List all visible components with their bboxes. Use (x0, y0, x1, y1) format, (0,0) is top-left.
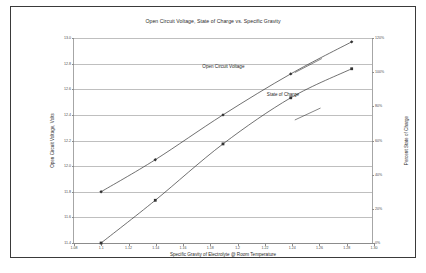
x-axis-tick-mark (265, 243, 266, 246)
x-axis-tick-label: 1.14 (152, 246, 159, 250)
x-axis-tick-mark (319, 243, 320, 246)
y-axis-left-tick-label: 12.0 (64, 164, 71, 168)
x-axis-tick-label: 1.26 (316, 246, 323, 250)
y-axis-right-tick-mark (372, 38, 374, 39)
x-axis-tick-label: 1.24 (289, 246, 296, 250)
x-axis-tick-label: 1.30 (371, 246, 378, 250)
data-point-marker (221, 113, 224, 116)
x-axis-tick-label: 1.2 (235, 246, 240, 250)
x-axis-tick-mark (74, 243, 75, 246)
y-axis-right-tick-label: 120% (375, 36, 384, 40)
x-axis-tick-label: 1.28 (343, 246, 350, 250)
x-axis-tick-mark (183, 243, 184, 246)
y-axis-right-tick-mark (372, 209, 374, 210)
y-axis-left-tick-label: 11.6 (64, 215, 71, 219)
y-axis-right-title: Percent State of Charge (401, 38, 411, 243)
y-axis-right-tick-label: 80% (375, 104, 382, 108)
data-point-marker (350, 67, 353, 70)
series-annotation-label: Open Circuit Voltage (202, 64, 244, 69)
data-point-marker (350, 40, 353, 43)
y-axis-left-tick-label: 11.8 (64, 190, 71, 194)
x-axis-tick-mark (292, 243, 293, 246)
y-axis-left-title: Open Circuit Voltage, Volts (47, 38, 57, 243)
x-axis-tick-label: 1.18 (207, 246, 214, 250)
y-axis-right-tick-mark (372, 175, 374, 176)
y-axis-left-tick-label: 12.6 (64, 87, 71, 91)
x-axis-tick-mark (156, 243, 157, 246)
series-line (101, 69, 352, 243)
x-axis-tick-label: 1.08 (71, 246, 78, 250)
x-axis-title: Specific Gravity of Electrolyte @ Room T… (73, 252, 373, 257)
data-point-marker (100, 242, 103, 245)
y-axis-left-tick-label: 12.8 (64, 62, 71, 66)
x-axis-tick-mark (347, 243, 348, 246)
annotation-leader-line (295, 108, 321, 120)
data-point-marker (222, 143, 225, 146)
chart-title: Open Circuit Voltage, State of Charge vs… (11, 18, 415, 24)
y-axis-left-tick-label: 12.2 (64, 139, 71, 143)
chart-frame: Open Circuit Voltage, State of Charge vs… (10, 6, 416, 258)
y-axis-right-tick-label: 100% (375, 70, 384, 74)
data-point-marker (154, 199, 157, 202)
data-point-marker (154, 158, 157, 161)
y-axis-right-tick-mark (372, 106, 374, 107)
y-axis-right-tick-mark (372, 72, 374, 73)
series-annotation-label: State of Charge (267, 92, 299, 97)
x-axis-tick-mark (374, 243, 375, 246)
y-axis-right-tick-label: 60% (375, 139, 382, 143)
data-point-marker (289, 72, 292, 75)
x-axis-tick-mark (210, 243, 211, 246)
y-axis-left-tick-label: 11.4 (64, 241, 71, 245)
y-axis-right-tick-label: 0% (375, 241, 380, 245)
annotation-leader-line (295, 59, 322, 73)
y-axis-left-tick-label: 12.4 (64, 113, 71, 117)
x-axis-tick-mark (129, 243, 130, 246)
x-axis-tick-label: 1.22 (261, 246, 268, 250)
series-layer (74, 38, 372, 243)
y-axis-right-tick-label: 20% (375, 207, 382, 211)
x-axis-tick-label: 1.12 (125, 246, 132, 250)
x-axis-tick-label: 1.16 (180, 246, 187, 250)
y-axis-left-tick-label: 13.0 (64, 36, 71, 40)
gridline (74, 243, 372, 244)
y-axis-right-tick-label: 40% (375, 173, 382, 177)
y-axis-right-tick-mark (372, 141, 374, 142)
chart-figure: Open Circuit Voltage, State of Charge vs… (0, 0, 426, 273)
x-axis-tick-mark (238, 243, 239, 246)
x-axis-tick-label: 1.1 (99, 246, 104, 250)
plot-area: 13.012.812.612.412.212.011.811.611.4 120… (73, 38, 373, 243)
data-point-marker (99, 190, 102, 193)
